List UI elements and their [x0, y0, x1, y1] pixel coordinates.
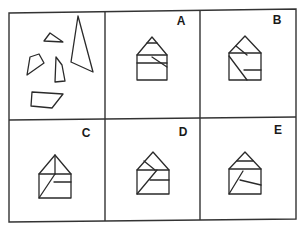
- option-c[interactable]: C: [39, 126, 91, 198]
- piece-bottom-quadrilateral: [31, 92, 63, 108]
- option-a[interactable]: A: [137, 14, 186, 80]
- division-line: [39, 174, 55, 198]
- house-outline: [229, 152, 261, 194]
- option-b[interactable]: B: [229, 13, 282, 80]
- option-label: E: [274, 123, 282, 137]
- question-panel-pieces: [27, 16, 93, 108]
- division-line: [240, 180, 261, 185]
- option-e[interactable]: E: [229, 123, 282, 194]
- piece-left-quadrilateral: [27, 54, 44, 75]
- option-label: B: [273, 13, 282, 27]
- piece-right-triangle: [71, 16, 93, 72]
- option-d[interactable]: D: [137, 125, 188, 194]
- answer-options: ABCDE: [39, 13, 282, 198]
- option-label: C: [82, 126, 91, 140]
- division-line: [144, 161, 155, 170]
- grid-horizontal-divider: [9, 117, 296, 120]
- option-label: A: [177, 14, 186, 28]
- piece-middle-quadrilateral: [55, 57, 65, 82]
- option-label: D: [179, 125, 188, 139]
- house-outline: [229, 36, 261, 80]
- puzzle-figure: ABCDE: [0, 0, 301, 237]
- division-line: [236, 46, 247, 55]
- division-line: [229, 56, 247, 80]
- division-line: [229, 171, 243, 194]
- piece-small-triangle: [44, 33, 63, 42]
- division-line: [152, 57, 167, 67]
- division-line: [137, 170, 157, 194]
